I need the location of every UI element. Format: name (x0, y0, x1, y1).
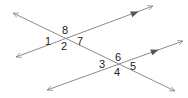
angle-label-3: 3 (99, 58, 105, 70)
angle-label-6: 6 (115, 51, 121, 63)
angle-label-7: 7 (77, 35, 83, 47)
transversal-line (13, 13, 175, 91)
parallel-arrow-marker-icon (150, 47, 160, 55)
angle-label-4: 4 (114, 66, 120, 78)
parallel-arrow-marker-icon (130, 9, 140, 17)
parallel-lines-diagram: 12783456 (0, 0, 188, 98)
angle-label-5: 5 (130, 60, 136, 72)
angle-label-1: 1 (45, 35, 51, 47)
angle-label-2: 2 (61, 40, 67, 52)
angle-label-8: 8 (62, 24, 68, 36)
